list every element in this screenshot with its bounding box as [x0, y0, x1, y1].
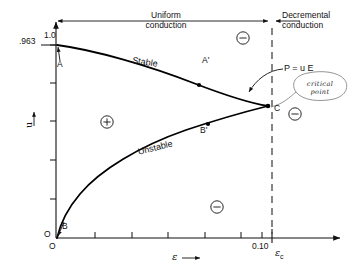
point-label-a-prime: A' — [202, 56, 209, 65]
x-axis-tick-label-010: 0.10 — [252, 242, 269, 251]
x-axis-title: ε — [172, 252, 177, 262]
x-axis-ticks — [95, 232, 262, 238]
point-label-b: B — [62, 222, 68, 231]
uniform-conduction-line2: conduction — [145, 20, 186, 30]
sign-badge-negative-top — [237, 32, 249, 44]
region-label-decremental-conduction: Decremental conduction — [282, 11, 348, 30]
y-axis-special-label-963: .963 — [19, 37, 36, 46]
decremental-conduction-line1: Decremental — [282, 10, 330, 20]
unstable-branch-curve — [57, 106, 268, 238]
stability-diagram — [0, 0, 352, 274]
y-axis-title: u — [24, 122, 34, 128]
point-label-a: A — [57, 60, 63, 69]
critical-point-line2: point — [311, 88, 330, 96]
critical-point-line1: critical — [307, 80, 333, 88]
sign-badge-positive — [101, 116, 113, 128]
axes — [56, 22, 340, 238]
region-label-uniform-conduction: Uniform conduction — [126, 11, 206, 30]
x-axis-critical-label: εc — [275, 248, 284, 260]
decremental-conduction-line2: conduction — [282, 20, 323, 30]
annotation-p-equals-ue: P = u E — [284, 64, 314, 73]
sign-badge-negative-right — [289, 108, 301, 120]
marker-a-prime — [197, 83, 201, 87]
leader-p-ue — [249, 69, 283, 92]
sign-badge-negative-bottom — [211, 201, 223, 213]
annotation-critical-point: critical point — [296, 80, 344, 96]
uniform-conduction-line1: Uniform — [151, 10, 181, 20]
y-axis-title-symbol: u — [23, 122, 34, 128]
y-axis-origin-label: O — [44, 230, 51, 239]
x-axis-title-symbol: ε — [172, 251, 177, 262]
y-axis-ticks — [50, 45, 56, 199]
stable-branch-curve — [57, 45, 268, 106]
point-label-c: C — [274, 104, 280, 113]
marker-c — [266, 104, 271, 109]
x-axis-origin-label: O — [49, 242, 56, 251]
y-axis-tick-label-1: 1.0 — [44, 31, 56, 40]
point-label-b-prime: B' — [200, 126, 207, 135]
